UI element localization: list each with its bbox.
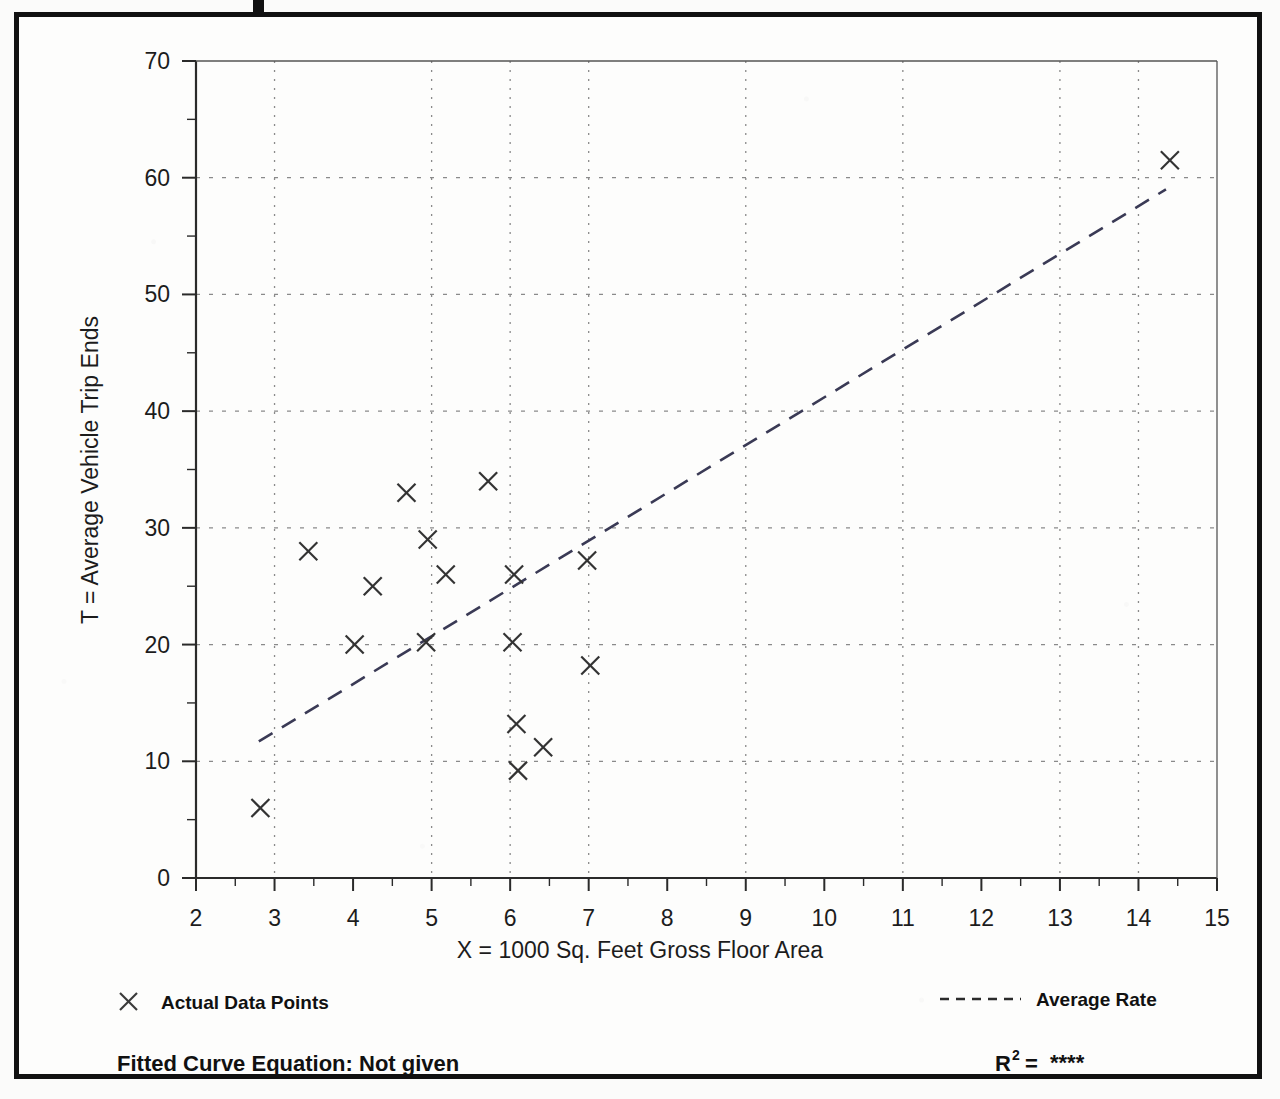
- y-axis-tick-label: 50: [144, 281, 170, 307]
- y-axis-tick-label: 0: [157, 865, 170, 891]
- x-axis-tick-labels: 23456789101112131415: [190, 905, 1230, 931]
- x-axis-tick-label: 2: [190, 905, 203, 931]
- x-axis-tick-label: 15: [1204, 905, 1230, 931]
- data-point-marker: [1161, 151, 1179, 169]
- legend-average-rate-label: Average Rate: [1036, 989, 1157, 1010]
- r-squared-symbol: R: [995, 1051, 1011, 1076]
- y-axis-tick-label: 10: [144, 748, 170, 774]
- y-axis-tick-labels: 010203040506070: [144, 48, 170, 891]
- data-point-marker: [364, 577, 382, 595]
- data-point-marker: [299, 542, 317, 560]
- x-marker-icon: [120, 993, 137, 1010]
- r-squared-value: ****: [1050, 1050, 1085, 1075]
- x-axis-tick-label: 12: [969, 905, 995, 931]
- r-squared-block: R 2 = ****: [995, 1047, 1085, 1076]
- data-point-marker: [251, 799, 269, 817]
- plot-container: 23456789101112131415 010203040506070 X =…: [0, 0, 1280, 1099]
- legend-average-rate: Average Rate: [940, 989, 1157, 1010]
- data-point-marker: [578, 552, 596, 570]
- y-axis-ticks: [182, 61, 196, 878]
- x-axis-tick-label: 5: [425, 905, 438, 931]
- data-point-marker: [346, 636, 364, 654]
- r-squared-equals: =: [1025, 1051, 1038, 1076]
- x-axis-tick-label: 10: [812, 905, 838, 931]
- x-axis-tick-label: 11: [891, 905, 915, 931]
- data-point-marker: [509, 762, 527, 780]
- x-axis-tick-label: 6: [504, 905, 517, 931]
- x-axis-tick-label: 14: [1126, 905, 1152, 931]
- x-axis-tick-label: 8: [661, 905, 674, 931]
- r-squared-exponent: 2: [1012, 1047, 1020, 1063]
- y-axis-tick-label: 60: [144, 165, 170, 191]
- x-axis-tick-label: 9: [739, 905, 752, 931]
- data-point-marker: [397, 484, 415, 502]
- x-axis-ticks: [196, 878, 1217, 891]
- data-point-marker: [534, 738, 552, 756]
- data-point-marker: [581, 657, 599, 675]
- data-point-marker: [419, 531, 437, 549]
- y-axis-tick-label: 40: [144, 398, 170, 424]
- data-point-marker: [507, 715, 525, 733]
- figure-page: 23456789101112131415 010203040506070 X =…: [0, 0, 1280, 1099]
- data-point-markers: [251, 151, 1178, 817]
- legend-data-points: Actual Data Points: [120, 992, 329, 1013]
- data-point-marker: [437, 566, 455, 584]
- x-axis-tick-label: 13: [1047, 905, 1073, 931]
- x-axis-tick-label: 3: [268, 905, 281, 931]
- data-point-marker: [505, 566, 523, 584]
- scatter-chart: 23456789101112131415 010203040506070 X =…: [0, 0, 1280, 1099]
- y-axis-tick-label: 70: [144, 48, 170, 74]
- y-axis-title: T = Average Vehicle Trip Ends: [77, 316, 103, 624]
- x-axis-tick-label: 7: [582, 905, 595, 931]
- legend-data-points-label: Actual Data Points: [161, 992, 329, 1013]
- data-point-marker: [504, 633, 522, 651]
- average-rate-trendline: [259, 189, 1166, 741]
- data-point-marker: [479, 472, 497, 490]
- x-axis-title: X = 1000 Sq. Feet Gross Floor Area: [457, 937, 823, 963]
- fitted-curve-equation: Fitted Curve Equation: Not given: [117, 1051, 459, 1076]
- y-axis-tick-label: 20: [144, 632, 170, 658]
- x-axis-tick-label: 4: [347, 905, 360, 931]
- y-axis-tick-label: 30: [144, 515, 170, 541]
